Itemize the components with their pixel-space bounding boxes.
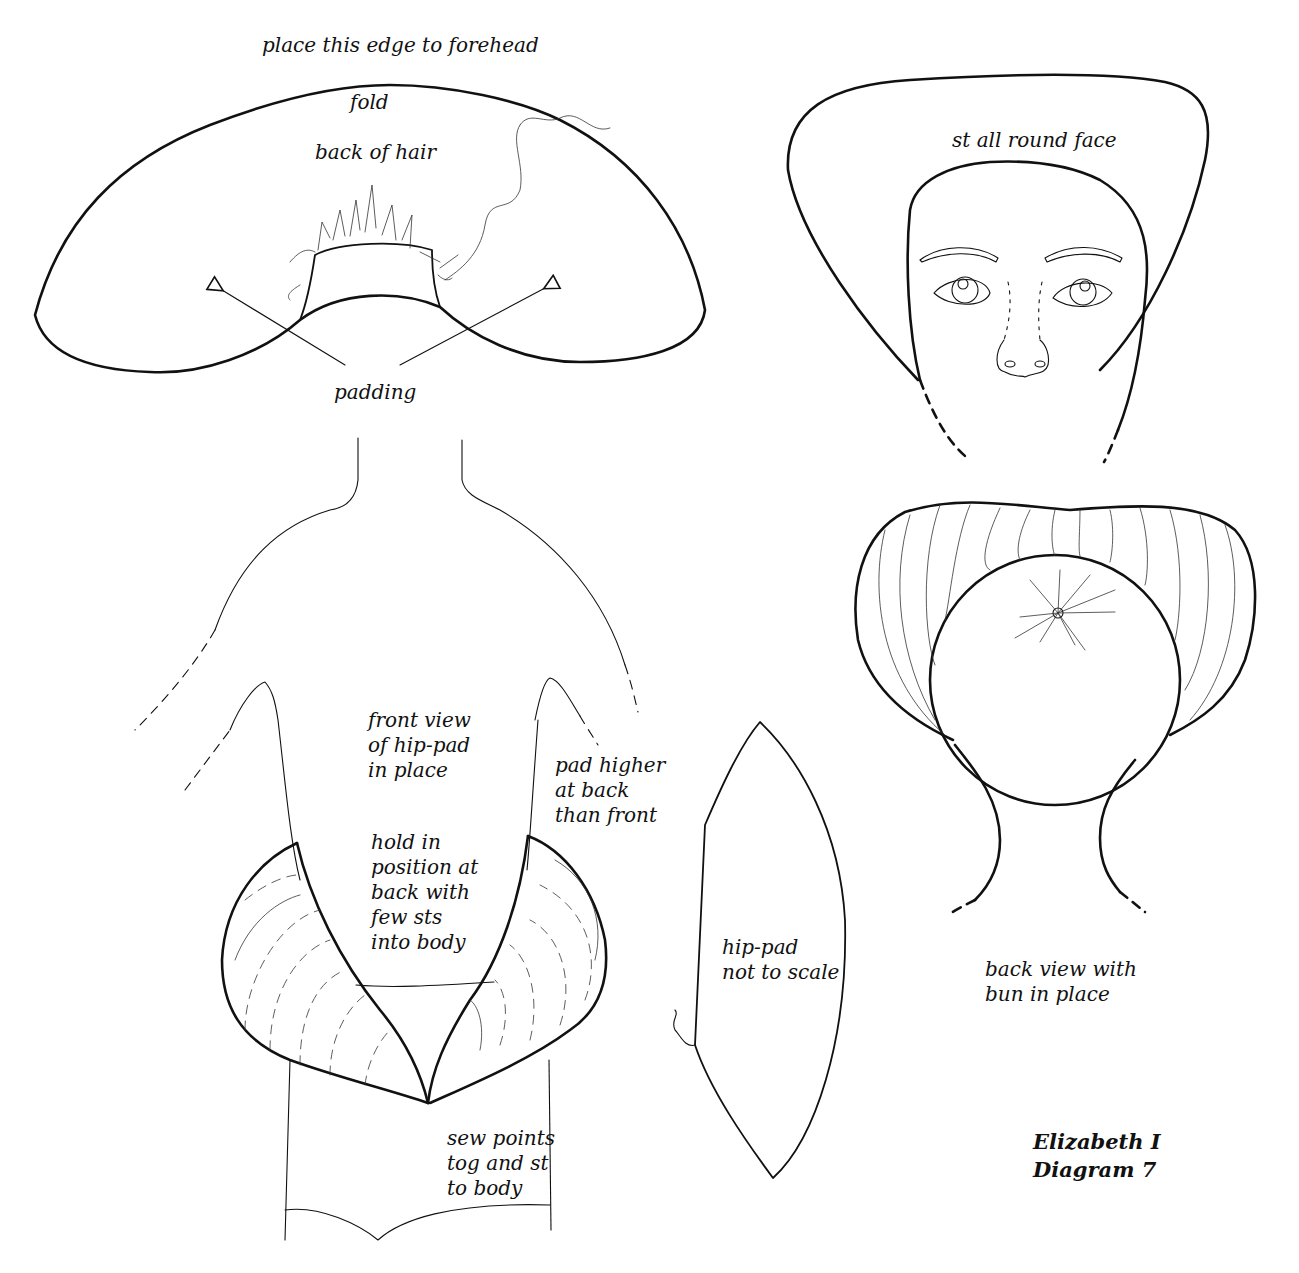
hair-back-outline: [855, 502, 1255, 740]
arm-left-dashed: [135, 630, 215, 730]
hair-rib: [1052, 510, 1055, 556]
label-place-edge-to-forehead: place this edge to forehead: [262, 33, 539, 58]
label-st-all-round-face: st all round face: [952, 128, 1117, 153]
label-sew-points-tog: sew points tog and st to body: [447, 1126, 555, 1201]
nose-bridge-right: [1039, 282, 1042, 340]
hair-rib: [926, 505, 940, 665]
pad-rib: [495, 980, 505, 1045]
right-torso-line: [527, 720, 538, 870]
hair-thread: [445, 116, 610, 280]
arm-right-dashed: [625, 665, 638, 712]
neck-right-dashed: [1120, 892, 1145, 912]
label-fold: fold: [350, 90, 389, 115]
left-arm-inner-dashed: [185, 730, 230, 790]
label-pad-higher-at-back: pad higher at back than front: [555, 753, 665, 828]
diagram-drawing: [0, 0, 1299, 1273]
neck-right: [462, 440, 625, 665]
pad-rib: [330, 995, 365, 1075]
hair-rib: [879, 530, 945, 735]
hair-rib: [1185, 515, 1208, 690]
label-padding: padding: [334, 380, 416, 405]
pad-rib: [530, 920, 566, 1025]
right-eye: [1053, 283, 1112, 306]
left-eye: [934, 280, 990, 305]
hair-piece-outline: [35, 85, 705, 372]
hair-rib: [1110, 510, 1113, 562]
hair-piece-pattern: [35, 85, 705, 372]
lower-body-left: [285, 1060, 290, 1240]
pad-rib: [540, 885, 591, 1000]
nose-bridge-left: [1004, 282, 1010, 340]
figure-subtitle: Diagram 7: [1033, 1156, 1156, 1183]
right-eyebrow: [1045, 247, 1122, 262]
label-back-of-hair: back of hair: [315, 140, 436, 165]
right-arm-dashed: [580, 716, 598, 745]
right-torso: [535, 678, 580, 720]
figure-title: Elizabeth I: [1033, 1128, 1161, 1155]
chin-left-dashed: [920, 380, 970, 460]
label-hold-in-position: hold in position at back with few sts in…: [371, 830, 478, 955]
label-back-view-with-bun: back view with bun in place: [985, 957, 1137, 1007]
right-nostril: [1035, 361, 1045, 367]
padding-arrow-left: [222, 290, 345, 365]
hair-frame-outline: [788, 75, 1208, 380]
left-eyebrow: [920, 248, 998, 262]
neck-left: [215, 438, 358, 630]
bun-hair-strands: [1015, 570, 1115, 650]
pad-rib: [365, 1030, 390, 1085]
face-outline: [908, 162, 1147, 430]
left-nostril: [1005, 361, 1015, 367]
hair-rib: [1140, 508, 1147, 585]
hair-rib: [1079, 510, 1080, 556]
diagram-canvas: place this edge to forehead fold back of…: [0, 0, 1299, 1273]
back-view: [855, 502, 1255, 915]
hair-fringe: [288, 185, 458, 300]
pad-rib: [470, 1000, 482, 1050]
body-waist-line: [356, 982, 494, 986]
hair-rib: [1018, 510, 1030, 560]
body-hem: [285, 1205, 550, 1240]
pad-rib: [245, 910, 320, 1030]
left-arm-inner: [230, 682, 300, 880]
left-pupil: [958, 279, 968, 289]
neck-left-dashed: [948, 900, 975, 915]
nose: [997, 340, 1049, 377]
hair-rib: [1170, 510, 1180, 640]
bun-outline: [930, 555, 1180, 805]
neck-left-back: [955, 745, 1000, 900]
hip-pad-thread: [674, 1010, 695, 1045]
pad-rib: [510, 945, 534, 1040]
hair-rib: [985, 508, 1000, 570]
pad-rib: [300, 970, 345, 1065]
label-front-view-hip-pad: front view of hip-pad in place: [368, 708, 471, 783]
chin-right-dashed: [1104, 430, 1118, 462]
pad-rib: [270, 940, 330, 1050]
label-hip-pad-not-to-scale: hip-pad not to scale: [722, 935, 839, 985]
left-iris: [952, 277, 978, 303]
